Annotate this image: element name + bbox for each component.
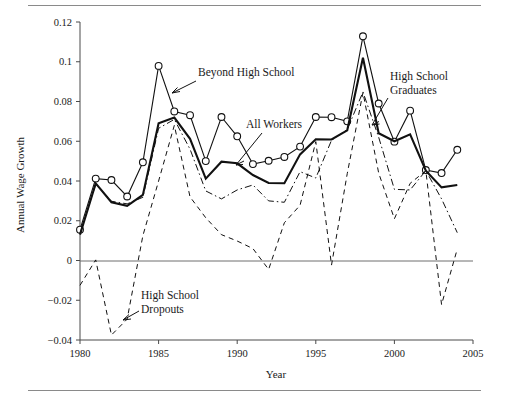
data-point-marker (234, 133, 241, 140)
y-tick-label: 0.08 (54, 96, 72, 107)
data-point-marker (92, 175, 99, 182)
data-point-marker (171, 108, 178, 115)
y-tick-label: 0.02 (54, 215, 72, 226)
data-point-marker (281, 154, 288, 161)
y-tick-label: −0.04 (48, 335, 73, 346)
annotation-high-school-dropouts-label-line2: Dropouts (141, 303, 184, 316)
x-tick-label: 1980 (70, 348, 91, 359)
y-axis-ticks: −0.04−0.0200.020.040.060.080.10.12 (48, 17, 80, 346)
series-beyond-high-school (77, 33, 461, 233)
annotation-high-school-graduates: High School Graduates (372, 70, 448, 125)
y-tick-label: 0.06 (54, 136, 72, 147)
data-point-marker (328, 114, 335, 121)
data-point-marker (297, 143, 304, 150)
annotation-high-school-dropouts-leader (123, 311, 139, 320)
data-point-marker (139, 159, 146, 166)
annotation-beyond-high-school-arrowhead (172, 88, 180, 94)
data-point-marker (407, 107, 414, 114)
data-point-marker (454, 146, 461, 153)
annotation-beyond-high-school-label: Beyond High School (198, 66, 294, 79)
annotation-high-school-dropouts-label-line1: High School (141, 289, 199, 302)
data-point-marker (438, 170, 445, 177)
y-tick-label: 0 (67, 255, 72, 266)
annotation-all-workers-label: All Workers (246, 118, 303, 130)
x-tick-label: 2000 (384, 348, 405, 359)
data-point-marker (312, 114, 319, 121)
x-tick-label: 1995 (305, 348, 326, 359)
line-chart: Annual Wage Growth Year −0.04−0.0200.020… (0, 0, 509, 406)
figure-top-rule (28, 5, 481, 6)
annotation-high-school-dropouts: High School Dropouts (123, 289, 199, 320)
x-axis-title: Year (266, 368, 287, 380)
data-point-marker (360, 33, 367, 40)
x-axis-ticks: 198019851990199520002005 (70, 340, 484, 359)
annotation-beyond-high-school-leader (172, 81, 196, 93)
data-point-marker (265, 157, 272, 164)
x-tick-label: 1990 (227, 348, 248, 359)
data-point-marker (250, 161, 257, 168)
y-tick-label: −0.02 (48, 295, 72, 306)
figure-container: Annual Wage Growth Year −0.04−0.0200.020… (0, 0, 509, 406)
data-point-marker (108, 177, 115, 184)
y-tick-label: 0.04 (54, 176, 73, 187)
data-point-marker (155, 63, 162, 70)
data-point-marker (124, 193, 131, 200)
annotation-high-school-graduates-label-line1: High School (390, 70, 448, 83)
figure-bottom-rule (28, 390, 481, 391)
y-axis-title: Annual Wage Growth (14, 136, 26, 233)
data-point-marker (218, 114, 225, 121)
y-tick-label: 0.1 (59, 56, 72, 67)
y-tick-label: 0.12 (54, 17, 72, 28)
x-tick-label: 1985 (148, 348, 169, 359)
data-point-marker (187, 112, 194, 119)
annotation-beyond-high-school: Beyond High School (172, 66, 294, 93)
x-tick-label: 2005 (463, 348, 484, 359)
data-point-marker (375, 100, 382, 107)
data-point-marker (202, 158, 209, 165)
annotation-high-school-graduates-label-line2: Graduates (390, 84, 437, 96)
